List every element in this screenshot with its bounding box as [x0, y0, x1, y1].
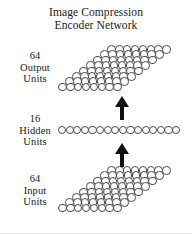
arrow-input-to-hidden-icon	[113, 143, 131, 167]
input-layer-count: 64	[4, 173, 66, 185]
figure-title-line-1: Image Compression	[0, 6, 192, 19]
output-layer-count: 64	[4, 50, 66, 62]
unit-node	[134, 126, 142, 134]
unit-node	[90, 83, 99, 92]
unit-grid-row	[58, 204, 121, 213]
output-unit-grid	[58, 45, 190, 93]
output-layer-units-word: Units	[4, 73, 66, 85]
input-layer-units-word: Units	[4, 196, 66, 208]
unit-node	[172, 126, 180, 134]
hidden-layer-label: 16 Hidden Units	[4, 113, 66, 148]
input-unit-grid	[58, 166, 190, 214]
figure-title: Image Compression Encoder Network	[0, 6, 192, 32]
input-layer-name: Input	[4, 185, 66, 197]
unit-node	[58, 126, 66, 134]
input-layer-label: 64 Input Units	[4, 173, 66, 208]
hidden-layer-name: Hidden	[4, 125, 66, 137]
unit-node	[96, 126, 104, 134]
hidden-layer-count: 16	[4, 113, 66, 125]
hidden-unit-row	[58, 126, 190, 137]
unit-node	[113, 204, 122, 213]
network-diagram-figure: Image Compression Encoder Network 64 Out…	[0, 0, 192, 234]
unit-node	[90, 204, 99, 213]
arrow-hidden-to-output-icon	[113, 96, 131, 120]
figure-title-line-2: Encoder Network	[0, 19, 192, 32]
unit-node	[113, 83, 122, 92]
output-layer-label: 64 Output Units	[4, 50, 66, 85]
unit-grid-row	[58, 83, 121, 92]
output-layer-name: Output	[4, 62, 66, 74]
hidden-layer-units-word: Units	[4, 136, 66, 148]
